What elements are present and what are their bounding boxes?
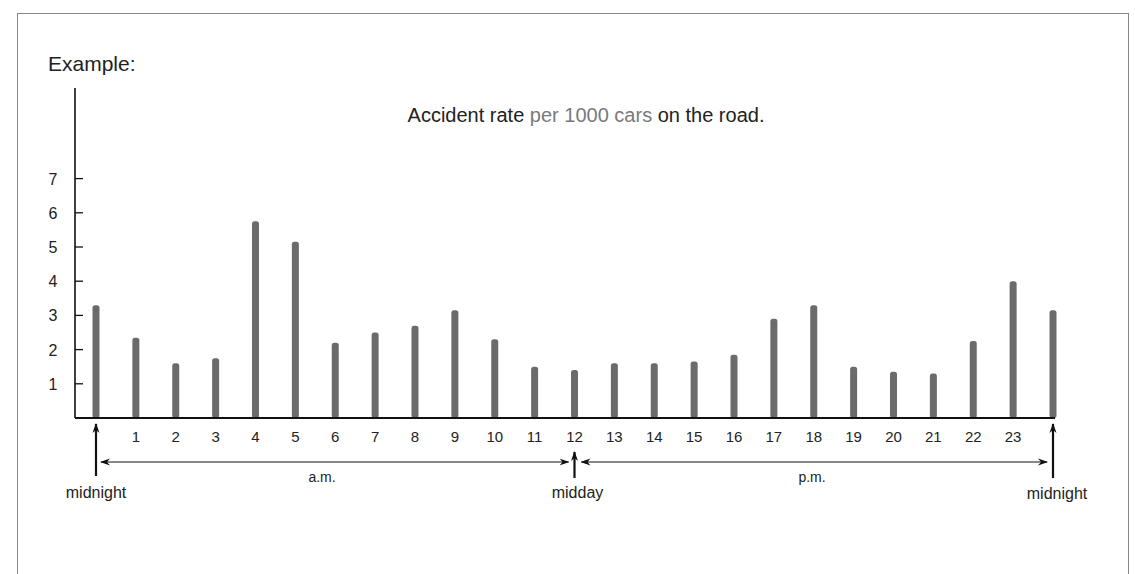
x-tick-label: 14: [646, 428, 663, 445]
bar-hour-16: [731, 355, 738, 418]
x-tick-label: 19: [845, 428, 862, 445]
y-tick-label: 2: [49, 342, 58, 359]
x-tick-label: 3: [211, 428, 219, 445]
bar-hour-14: [651, 363, 658, 418]
bar-hour-4: [252, 221, 259, 418]
bar-hour-23: [1010, 281, 1017, 418]
bar-hour-17: [770, 319, 777, 418]
midday-label: midday: [552, 484, 604, 501]
x-tick-label: 10: [486, 428, 503, 445]
bar-hour-18: [810, 305, 817, 418]
x-tick-label: 12: [566, 428, 583, 445]
x-tick-label: 16: [726, 428, 743, 445]
bar-hour-15: [691, 362, 698, 418]
bar-hour-5: [292, 242, 299, 418]
y-tick-label: 4: [49, 273, 58, 290]
x-tick-label: 5: [291, 428, 299, 445]
x-tick-label: 20: [885, 428, 902, 445]
bar-hour-13: [611, 363, 618, 418]
x-tick-label: 21: [925, 428, 942, 445]
x-tick-label: 23: [1005, 428, 1022, 445]
y-tick-label: 5: [49, 239, 58, 256]
bar-hour-9: [451, 310, 458, 418]
midnight-end-label: midnight: [1027, 485, 1088, 502]
x-tick-label: 4: [251, 428, 259, 445]
y-axis: 1234567: [49, 88, 83, 418]
chart-title: Accident rate per 1000 cars on the road.: [408, 104, 765, 126]
x-axis: 1234567891011121314151617181920212223: [75, 418, 1055, 445]
y-tick-label: 7: [49, 171, 58, 188]
x-tick-label: 8: [411, 428, 419, 445]
chart-title-part: on the road.: [652, 104, 764, 126]
bar-hour-1: [132, 338, 139, 418]
x-tick-label: 22: [965, 428, 982, 445]
bar-hour-21: [930, 374, 937, 418]
am-label: a.m.: [308, 469, 335, 485]
x-tick-label: 15: [686, 428, 703, 445]
x-tick-label: 17: [766, 428, 783, 445]
pm-label: p.m.: [798, 469, 825, 485]
x-tick-label: 9: [451, 428, 459, 445]
bar-hour-10: [491, 339, 498, 418]
x-tick-label: 1: [132, 428, 140, 445]
bar-hour-20: [890, 372, 897, 418]
chart-title-part: per 1000 cars: [530, 104, 652, 126]
bar-hour-12: [571, 370, 578, 418]
x-tick-label: 13: [606, 428, 623, 445]
x-tick-label: 11: [527, 428, 543, 445]
y-tick-label: 6: [49, 205, 58, 222]
midnight-start-label: midnight: [66, 484, 127, 501]
bar-hour-2: [172, 363, 179, 418]
bar-hour-11: [531, 367, 538, 418]
bars: [93, 221, 1057, 418]
y-tick-label: 1: [49, 376, 58, 393]
y-tick-label: 3: [49, 307, 58, 324]
bar-hour-7: [372, 333, 379, 419]
chart-title-part: Accident rate: [408, 104, 530, 126]
x-tick-label: 2: [172, 428, 180, 445]
bar-hour-6: [332, 343, 339, 418]
x-tick-label: 18: [805, 428, 822, 445]
bar-hour-22: [970, 341, 977, 418]
bar-hour-24: [1050, 310, 1057, 418]
bar-hour-3: [212, 358, 219, 418]
bar-hour-0: [93, 305, 100, 418]
x-tick-label: 7: [371, 428, 379, 445]
x-tick-label: 6: [331, 428, 339, 445]
bar-hour-19: [850, 367, 857, 418]
bar-hour-8: [412, 326, 419, 418]
